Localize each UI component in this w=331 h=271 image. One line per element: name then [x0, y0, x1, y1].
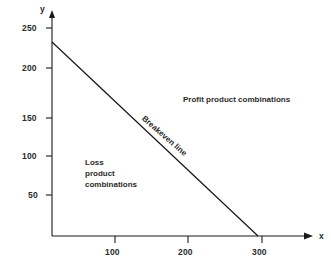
profit-region-label: Profit product combinations: [183, 94, 290, 105]
x-axis-label: x: [319, 231, 324, 241]
y-tick-label-200: 200: [22, 63, 37, 73]
y-tick-label-250: 250: [22, 23, 37, 33]
y-tick-label-150: 150: [22, 113, 37, 123]
x-tick-label-200: 200: [178, 247, 193, 257]
x-tick-label-300: 300: [252, 247, 267, 257]
x-tick-label-100: 100: [105, 247, 120, 257]
breakeven-chart-figure: 250 200 150 100 50 100 200 300 y x Profi…: [0, 0, 331, 271]
breakeven-line-series: [52, 42, 258, 236]
y-axis-label: y: [40, 4, 45, 14]
y-tick-label-100: 100: [22, 151, 37, 161]
y-axis-arrow-icon: [49, 10, 55, 18]
y-tick-label-50: 50: [28, 190, 38, 200]
loss-region-label: Loss product combinations: [85, 157, 137, 190]
x-axis-arrow-icon: [304, 233, 313, 240]
